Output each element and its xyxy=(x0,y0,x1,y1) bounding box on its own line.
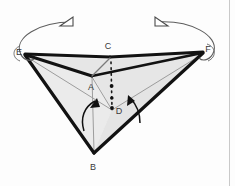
figure-root: E C F A D B xyxy=(0,0,235,186)
vertex-label-D: D xyxy=(116,106,123,116)
vertex-label-B: B xyxy=(90,162,96,172)
dot-marker-mid xyxy=(110,84,114,88)
dot-marker-lower xyxy=(110,96,114,100)
left-rotation-arrowhead-icon xyxy=(60,17,73,26)
vertex-label-C: C xyxy=(105,41,112,51)
polyhedron-diagram: E C F A D B xyxy=(0,0,235,186)
vertex-label-A: A xyxy=(88,82,94,92)
vertex-label-F: F xyxy=(205,44,211,54)
dot-marker-D xyxy=(110,106,114,110)
vertex-label-E: E xyxy=(16,47,22,57)
